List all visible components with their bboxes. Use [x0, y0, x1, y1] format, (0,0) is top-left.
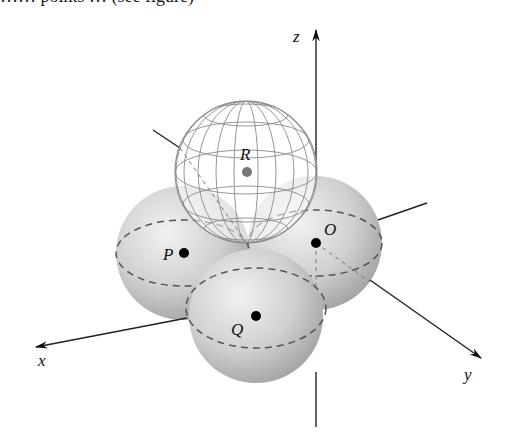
sphere-diagram: P O Q R x y z — [0, 0, 509, 437]
label-p: P — [162, 245, 173, 264]
label-r: R — [239, 145, 251, 164]
point-q-dot — [251, 311, 261, 321]
label-y-axis: y — [462, 365, 472, 384]
x-axis — [36, 318, 187, 347]
label-z-axis: z — [292, 27, 300, 46]
negative-x-axis — [153, 130, 180, 148]
label-q: Q — [231, 320, 243, 339]
point-r-dot — [242, 167, 252, 177]
y-axis — [370, 280, 481, 358]
point-p-dot — [179, 248, 189, 258]
label-x-axis: x — [37, 351, 46, 370]
point-o-dot — [311, 238, 321, 248]
label-o: O — [324, 220, 336, 239]
negative-y-axis — [375, 203, 427, 221]
